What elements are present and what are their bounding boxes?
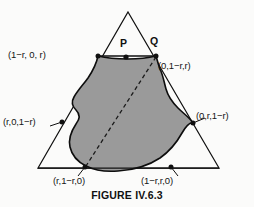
shaded-region: [69, 56, 193, 171]
figure-container: (1−r, 0, r) (0,1−r,r) (r,0,1−r) (0,r,1−r…: [0, 0, 254, 207]
point-dot-p: [123, 54, 128, 59]
vertex-label-botright: (1−r,r,0): [141, 176, 173, 186]
vertex-label-botleft: (r,1−r,0): [53, 176, 85, 186]
leader-midleft: [50, 122, 62, 126]
figure-caption: FIGURE IV.6.3: [0, 189, 254, 201]
vertex-label-topright: (0,1−r,r): [158, 61, 191, 71]
figure-diagram: [0, 0, 254, 207]
vertex-dot-topleft: [96, 54, 101, 59]
vertex-dot-topright: [154, 54, 159, 59]
point-label-p: P: [120, 38, 127, 49]
point-label-q: Q: [150, 36, 158, 47]
vertex-label-midright: (0,r,1−r): [196, 111, 229, 121]
vertex-label-midleft: (r,0,1−r): [3, 117, 36, 127]
vertex-label-topleft: (1−r, 0, r): [8, 50, 46, 60]
